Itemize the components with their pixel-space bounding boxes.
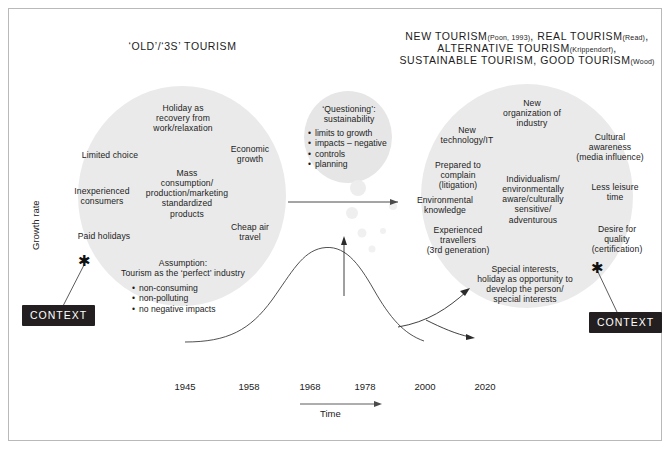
right-heading-comma-1: , [645, 30, 649, 42]
timeline-year: 1945 [162, 381, 208, 392]
timeline-year: 1968 [287, 381, 333, 392]
timeline-year: 2020 [462, 381, 508, 392]
context-left-leader [63, 265, 84, 306]
left-heading: ‘OLD’/‘3S’ TOURISM [70, 40, 295, 52]
label-experienced-travellers: Experienced travellers (3rd generation) [406, 225, 510, 255]
label-less-leisure-time: Less leisure time [576, 182, 654, 202]
timeline-year: 1978 [342, 381, 388, 392]
label-new-technology: New technology/IT [424, 125, 510, 145]
x-axis-label: Time [320, 408, 341, 419]
assumption-bullet: non-polluting [132, 293, 262, 303]
citation-wood: (Wood) [631, 58, 655, 65]
peak-arrow [341, 236, 347, 296]
label-paid-holidays: Paid holidays [58, 231, 150, 241]
right-heading-sustainable-good-tourism: SUSTAINABLE TOURISM, GOOD TOURISM [399, 54, 630, 66]
right-heading-alternative-tourism: ALTERNATIVE TOURISM [437, 42, 570, 54]
timeline-year: 1958 [226, 381, 272, 392]
asterisk-icon-right: ✱ [591, 260, 604, 275]
diagram-graphics [0, 0, 672, 451]
label-cheap-air-travel: Cheap air travel [216, 222, 284, 242]
label-new-organization: New organization of industry [480, 98, 584, 128]
label-economic-growth: Economic growth [214, 144, 286, 164]
decline-arrow [426, 320, 475, 340]
assumption-bullet-list: non-consuming non-polluting no negative … [132, 283, 262, 314]
citation-krippendorf: (Krippendorf) [570, 46, 613, 53]
label-cultural-awareness: Cultural awareness (media influence) [557, 132, 663, 162]
decorative-bubble-3 [358, 229, 367, 238]
label-limited-choice: Limited choice [64, 150, 156, 160]
label-holiday-recovery: Holiday as recovery from work/relaxation [128, 103, 238, 133]
label-individualism: Individualism/ environmentally aware/cul… [481, 174, 585, 225]
questioning-bullet-list: limits to growth impacts – negative cont… [308, 128, 394, 170]
context-box-right[interactable]: CONTEXT [589, 312, 662, 333]
label-assumption-title: Assumption: Tourism as the ‘perfect’ ind… [95, 258, 271, 278]
decorative-bubble-5 [380, 228, 386, 234]
label-mass-consumption: Mass consumption/ production/marketing s… [124, 168, 250, 219]
assumption-bullet: non-consuming [132, 283, 262, 293]
transition-arrow [288, 199, 398, 205]
questioning-bullet: limits to growth [308, 128, 394, 138]
diagram-canvas: ‘OLD’/‘3S’ TOURISM NEW TOURISM(Poon, 199… [0, 0, 672, 451]
right-heading-new-tourism: NEW TOURISM [405, 30, 487, 42]
context-right-leader [598, 272, 617, 312]
right-heading: NEW TOURISM(Poon, 1993), REAL TOURISM(Re… [384, 30, 670, 66]
right-heading-comma-2: , [613, 42, 617, 54]
questioning-bullet: impacts – negative [308, 138, 394, 148]
label-environmental-knowledge: Environmental knowledge [399, 195, 491, 215]
context-box-left[interactable]: CONTEXT [22, 305, 95, 326]
decorative-bubble-2 [346, 207, 358, 219]
citation-read: (Read) [623, 34, 646, 41]
label-questioning-title: ‘Questioning’: sustainability [306, 104, 392, 124]
right-heading-real-tourism: , REAL TOURISM [530, 30, 622, 42]
citation-poon: (Poon, 1993) [487, 34, 530, 41]
questioning-bullet: planning [308, 159, 394, 169]
decorative-bubble-4 [369, 246, 376, 253]
y-axis-label: Growth rate [30, 200, 41, 250]
decorative-bubble-1 [350, 180, 366, 196]
label-desire-for-quality: Desire for quality (certification) [575, 224, 659, 254]
asterisk-icon-left: ✱ [78, 253, 91, 268]
label-special-interests: Special interests, holiday as opportunit… [450, 264, 600, 305]
time-axis-arrow [300, 401, 382, 407]
questioning-bullet: controls [308, 149, 394, 159]
assumption-bullet: no negative impacts [132, 304, 262, 314]
timeline-year: 2000 [402, 381, 448, 392]
